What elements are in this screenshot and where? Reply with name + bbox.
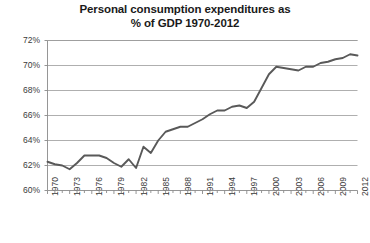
x-axis-ticks	[48, 191, 358, 195]
gridlines	[48, 41, 358, 166]
plot-area	[0, 0, 370, 243]
data-series-line	[48, 54, 358, 169]
chart-container: Personal consumption expenditures as % o…	[0, 0, 370, 243]
